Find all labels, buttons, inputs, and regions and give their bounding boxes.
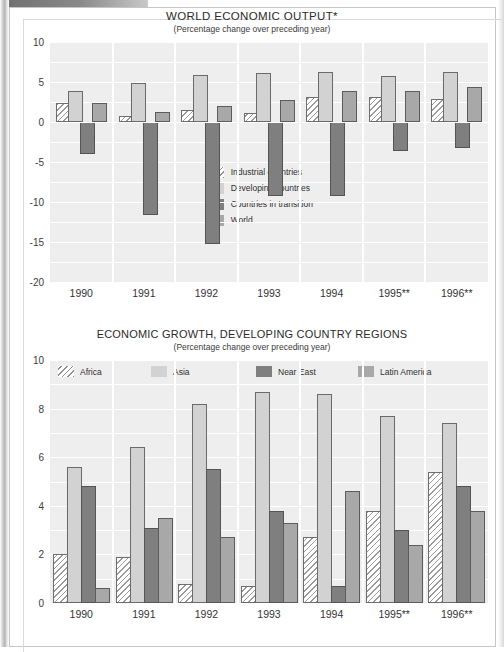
x-axis-tick-label: 1993	[257, 608, 280, 620]
bar	[342, 91, 357, 122]
y-axis-tick-label: -20	[30, 277, 44, 288]
legend-item: Developing countries	[208, 183, 313, 194]
group-separator	[299, 360, 301, 603]
y-axis-tick-label: -10	[30, 197, 44, 208]
legend-swatch-icon	[358, 366, 374, 377]
bar	[116, 557, 131, 603]
plot-area-top: Industrial countriesDeveloping countries…	[50, 42, 488, 282]
y-axis-tick-label: 4	[38, 500, 44, 511]
bar	[256, 73, 271, 122]
bar	[92, 103, 107, 122]
bar	[366, 511, 381, 603]
legend-item: Industrial countries	[208, 167, 313, 178]
legend-label: Industrial countries	[231, 167, 302, 177]
bar	[280, 100, 295, 122]
chart-world-economic-output: WORLD ECONOMIC OUTPUT* (Percentage chang…	[14, 10, 490, 312]
group-separator	[362, 360, 364, 603]
bar	[428, 472, 443, 603]
legend-label: Near East	[278, 367, 316, 377]
bar	[130, 447, 145, 603]
legend-item: Countries in transition	[208, 199, 313, 210]
bar	[67, 467, 82, 603]
bar	[405, 91, 420, 122]
group-separator	[237, 42, 239, 282]
zero-line	[50, 122, 488, 123]
group-separator	[424, 360, 426, 603]
bar	[467, 87, 482, 122]
bar	[393, 122, 408, 151]
x-axis-tick-label: 1991	[132, 287, 155, 299]
legend-item: Near East	[256, 366, 316, 377]
bar	[345, 491, 360, 603]
legend-item: Africa	[58, 366, 102, 377]
bar	[144, 528, 159, 603]
x-axis-tick-label: 1995**	[378, 287, 410, 299]
bar	[381, 76, 396, 122]
y-axis-bottom: 1086420	[14, 360, 48, 603]
bar	[268, 122, 283, 196]
x-axis-tick-label: 1992	[195, 608, 218, 620]
chart-economic-growth-regions: ECONOMIC GROWTH, DEVELOPING COUNTRY REGI…	[14, 328, 490, 638]
bar	[95, 588, 110, 603]
gridline	[50, 42, 488, 43]
group-separator	[112, 360, 114, 603]
bar	[455, 122, 470, 148]
bar	[131, 83, 146, 122]
x-axis-bottom: 199019911992199319941995**1996**	[50, 603, 488, 625]
gridline	[50, 360, 488, 361]
bar	[331, 586, 346, 603]
group-separator	[424, 42, 426, 282]
x-axis-tick-label: 1991	[132, 608, 155, 620]
x-axis-tick-label: 1990	[70, 287, 93, 299]
scan-edge-artifact-top-right	[148, 0, 504, 5]
scan-edge-artifact-left	[0, 0, 9, 647]
legend-label: Africa	[80, 367, 102, 377]
y-axis-tick-label: -15	[30, 237, 44, 248]
bar	[380, 416, 395, 603]
group-separator	[174, 360, 176, 603]
plot-area-bottom: AfricaAsiaNear EastLatin America	[50, 360, 488, 603]
y-axis-tick-label: 5	[38, 77, 44, 88]
x-axis-tick-label: 1995**	[378, 608, 410, 620]
bar	[53, 554, 68, 603]
y-axis-tick-label: 0	[38, 117, 44, 128]
x-axis-tick-label: 1992	[195, 287, 218, 299]
x-axis-tick-label: 1993	[257, 287, 280, 299]
bar	[158, 518, 173, 603]
group-separator	[237, 360, 239, 603]
bar	[143, 122, 158, 215]
legend-item: World	[208, 215, 313, 226]
y-axis-tick-label: 2	[38, 549, 44, 560]
chart-subtitle-bottom: (Percentage change over preceding year)	[14, 342, 490, 352]
gridline-minor	[50, 222, 488, 223]
bar	[217, 106, 232, 122]
bar	[178, 584, 193, 603]
bar	[470, 511, 485, 603]
scan-edge-artifact-top	[0, 0, 148, 7]
bar	[81, 486, 96, 603]
gridline-minor	[50, 62, 488, 63]
legend-item: Asia	[151, 366, 190, 377]
bar	[192, 404, 207, 603]
x-axis-tick-label: 1994	[320, 287, 343, 299]
bar	[68, 91, 83, 122]
y-axis-tick-label: 10	[33, 37, 44, 48]
gridline-minor	[50, 384, 488, 385]
gridline	[50, 242, 488, 243]
chart-subtitle-top: (Percentage change over preceding year)	[14, 24, 490, 34]
chart-title-bottom: ECONOMIC GROWTH, DEVELOPING COUNTRY REGI…	[14, 328, 490, 340]
bar	[330, 122, 345, 196]
bar	[442, 423, 457, 603]
group-separator	[112, 42, 114, 282]
y-axis-tick-label: 0	[38, 598, 44, 609]
bar	[193, 75, 208, 122]
y-axis-tick-label: 6	[38, 452, 44, 463]
bar	[220, 537, 235, 603]
legend-swatch-icon	[151, 366, 167, 377]
bar	[283, 523, 298, 603]
bar	[205, 122, 220, 244]
legend-swatch-icon	[256, 366, 272, 377]
bar	[155, 112, 170, 122]
x-axis-tick-label: 1996**	[441, 287, 473, 299]
